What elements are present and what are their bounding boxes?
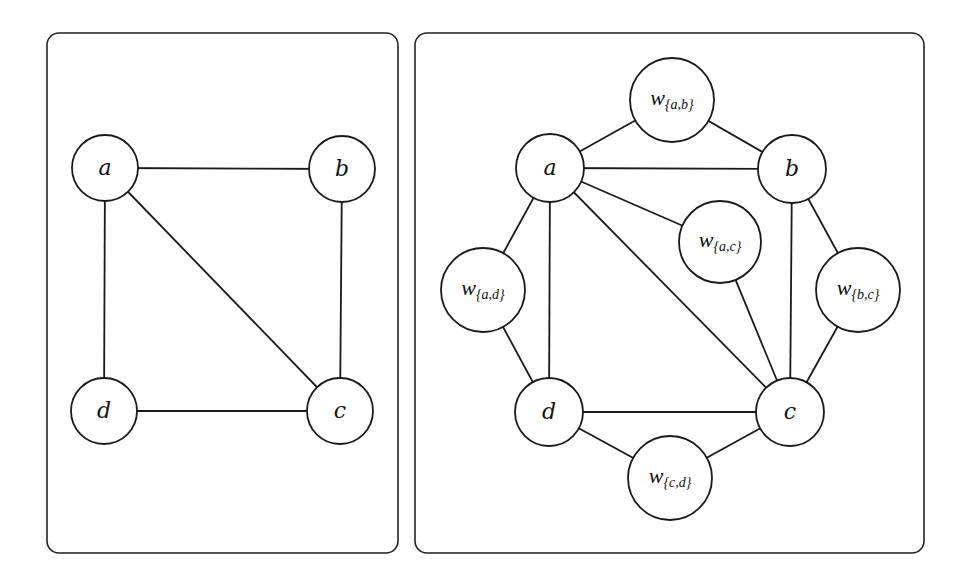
node-a: a bbox=[516, 134, 584, 202]
edge-a-b bbox=[105, 168, 342, 169]
node-label: c bbox=[334, 398, 346, 423]
original-graph: abcd bbox=[71, 135, 375, 444]
left-panel bbox=[47, 33, 398, 553]
node-wac: w{a,c} bbox=[679, 201, 761, 283]
edge-a-d bbox=[104, 168, 105, 411]
edge-a-c bbox=[105, 168, 340, 411]
node-wad: w{a,d} bbox=[441, 248, 525, 332]
subdivided-graph: abcdw{a,b}w{a,c}w{a,d}w{b,c}w{c,d} bbox=[441, 58, 900, 520]
node-wbc: w{b,c} bbox=[816, 248, 900, 332]
node-wab: w{a,b} bbox=[630, 58, 714, 142]
node-label: b bbox=[785, 156, 799, 181]
node-label: a bbox=[543, 155, 556, 180]
diagram-canvas: abcd abcdw{a,b}w{a,c}w{a,d}w{b,c}w{c,d} bbox=[0, 0, 973, 579]
node-b: b bbox=[758, 135, 826, 203]
edge-a-b bbox=[550, 168, 792, 169]
node-d: d bbox=[71, 378, 137, 444]
node-a: a bbox=[72, 135, 138, 201]
edge-a-c bbox=[550, 168, 790, 412]
node-c: c bbox=[307, 378, 373, 444]
edge-b-c bbox=[340, 169, 342, 411]
node-d: d bbox=[515, 378, 583, 446]
node-label: a bbox=[98, 155, 111, 180]
edge-b-c bbox=[790, 169, 792, 412]
node-label: b bbox=[335, 156, 349, 181]
node-c: c bbox=[756, 378, 824, 446]
node-label: c bbox=[784, 399, 796, 424]
node-label: d bbox=[542, 399, 556, 424]
node-b: b bbox=[309, 136, 375, 202]
node-label: d bbox=[97, 398, 111, 423]
node-wcd: w{c,d} bbox=[628, 436, 712, 520]
edge-a-d bbox=[549, 168, 550, 412]
